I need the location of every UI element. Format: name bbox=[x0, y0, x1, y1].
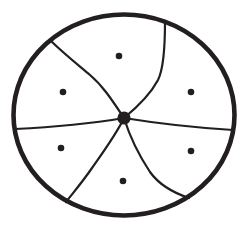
divider-lower-right bbox=[124, 118, 189, 198]
partitioned-circle-figure bbox=[0, 0, 246, 233]
region-dot-lower-right bbox=[188, 148, 195, 155]
center-point bbox=[117, 111, 130, 124]
region-dot-bottom bbox=[120, 178, 127, 185]
region-dot-upper-right bbox=[188, 89, 195, 96]
divider-right bbox=[124, 118, 233, 130]
divider-upper-left bbox=[50, 40, 124, 118]
divider-top bbox=[124, 22, 165, 118]
region-dot-top bbox=[116, 53, 123, 60]
diagram-canvas bbox=[0, 0, 246, 233]
region-dot-lower-left bbox=[58, 145, 65, 152]
divider-lower-left bbox=[66, 118, 124, 202]
divider-left bbox=[15, 118, 124, 129]
region-dot-upper-left bbox=[60, 89, 67, 96]
